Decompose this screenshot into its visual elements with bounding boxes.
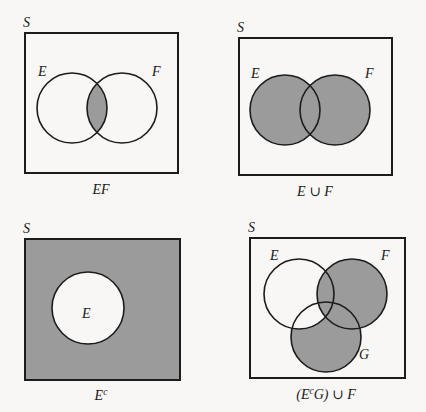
label-S: S [23, 15, 30, 30]
label-E: E [81, 306, 91, 321]
label-F: F [380, 248, 390, 263]
caption-intersection: EF [91, 182, 110, 197]
venn-panel-intersection: S E F EF [0, 0, 213, 206]
label-E: E [250, 66, 260, 81]
caption-union: E ∪ F [296, 184, 333, 199]
label-E: E [269, 248, 279, 263]
caption-complex-open: (E [296, 387, 310, 403]
venn-panel-union: S E F E ∪ F [213, 0, 426, 206]
venn-panel-complex: S E F G (EcG) ∪ F [213, 206, 426, 412]
caption-complex: (EcG) ∪ F [296, 386, 356, 403]
label-S: S [23, 221, 30, 236]
label-F: F [151, 64, 161, 79]
label-S: S [237, 20, 244, 35]
venn-panel-complement: S E Ec [0, 206, 213, 412]
label-F: F [364, 66, 374, 81]
venn-diagram-figure: S E F EF S E F E ∪ F [0, 0, 426, 412]
label-E: E [37, 64, 47, 79]
caption-complex-rest: G) ∪ F [314, 387, 357, 403]
caption-complement-base: E [94, 388, 104, 403]
label-S: S [248, 220, 255, 235]
label-G: G [359, 347, 369, 362]
shaded-region-complement [0, 206, 213, 412]
